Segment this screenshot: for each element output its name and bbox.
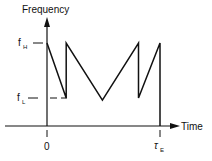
frequency-waveform [47, 43, 160, 126]
x-axis-label: Time [181, 121, 203, 132]
fH-label: f [18, 37, 21, 48]
fL-label: f [17, 92, 20, 103]
fH-subscript: H [23, 44, 27, 50]
y-axis-label: Frequency [22, 4, 69, 15]
tauE-subscript: E [160, 147, 164, 153]
zero-label: 0 [44, 141, 50, 152]
fL-subscript: L [22, 99, 26, 105]
tauE-label: τ [154, 140, 159, 151]
frequency-time-diagram: Frequency Time f H f L 0 τ E [0, 0, 212, 161]
y-axis-arrow-icon [44, 17, 50, 27]
x-axis-arrow-icon [170, 123, 180, 129]
